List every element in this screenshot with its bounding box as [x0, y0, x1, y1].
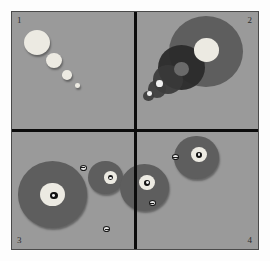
panel-1[interactable]: 1	[12, 12, 135, 131]
panel-2[interactable]: 2	[135, 12, 258, 131]
panel-4-label: 4	[248, 236, 253, 245]
figure-root: 1 2 3	[0, 0, 270, 261]
marker-upper[interactable]	[80, 165, 87, 171]
nucleus-large[interactable]	[50, 192, 57, 199]
gray-core-medium[interactable]	[174, 62, 189, 76]
light-disc-medium[interactable]	[46, 53, 62, 68]
panel-3[interactable]: 3	[12, 131, 135, 250]
panel-2-label: 2	[248, 16, 253, 25]
plate-frame: 1 2 3	[11, 11, 259, 250]
panel-3-label: 3	[17, 236, 22, 245]
panel-4[interactable]: 4	[135, 131, 258, 250]
panel-1-label: 1	[17, 16, 22, 25]
light-core-large[interactable]	[194, 38, 219, 62]
plate-canvas: 1 2 3	[12, 12, 258, 249]
light-disc-large[interactable]	[24, 30, 50, 55]
nucleus-upper[interactable]	[196, 152, 202, 158]
light-disc-small[interactable]	[62, 70, 72, 79]
light-core-small[interactable]	[156, 80, 163, 87]
marker-lower[interactable]	[103, 226, 110, 232]
horizontal-divider	[12, 129, 258, 132]
light-disc-tiny[interactable]	[75, 83, 80, 88]
